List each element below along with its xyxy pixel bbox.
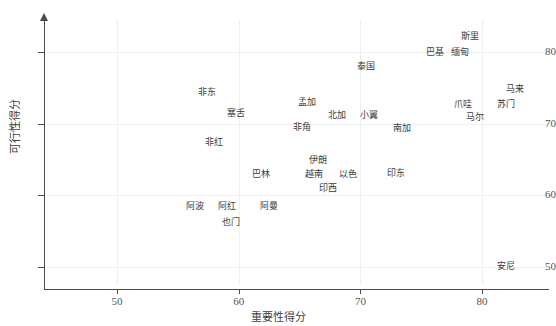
data-point-label: 南加 — [393, 124, 411, 133]
data-point-label: 爪哇 — [454, 99, 472, 108]
y-axis-tick-label: 70 — [520, 118, 556, 129]
y-axis-tick-label: 50 — [520, 261, 556, 272]
data-point-label: 非角 — [293, 123, 311, 132]
y-axis-title: 可行性得分 — [6, 66, 22, 186]
y-axis-tick — [38, 52, 44, 53]
scatter-chart: 斯里巴基缅甸泰国马来非东孟加爪哇苏门塞舌北加小翼马尔非角南加非红伊朗巴林越南以色… — [0, 0, 556, 326]
data-point-label: 阿曼 — [260, 202, 278, 211]
gridline-vertical — [239, 20, 240, 285]
data-point-label: 印西 — [319, 184, 337, 193]
data-point-label: 小翼 — [360, 111, 378, 120]
data-point-label: 巴林 — [252, 169, 270, 178]
x-axis-title: 重要性得分 — [0, 308, 556, 324]
data-point-label: 印东 — [387, 168, 405, 177]
data-point-label: 阿红 — [218, 202, 236, 211]
gridline-horizontal — [44, 195, 549, 196]
x-axis-tick-label: 80 — [462, 296, 502, 307]
data-point-label: 孟加 — [298, 98, 316, 107]
x-axis-tick — [117, 289, 118, 294]
gridline-vertical — [482, 20, 483, 285]
y-axis-tick-label: 60 — [520, 189, 556, 200]
x-axis-tick — [360, 289, 361, 294]
data-point-label: 缅甸 — [451, 48, 469, 57]
gridline-horizontal — [44, 52, 549, 53]
data-point-label: 巴基 — [426, 48, 444, 57]
data-point-label: 泰国 — [357, 61, 375, 70]
data-point-label: 斯里 — [461, 31, 479, 40]
y-axis-line — [44, 20, 45, 289]
x-axis-tick — [482, 289, 483, 294]
x-axis-tick — [239, 289, 240, 294]
y-axis-tick — [38, 267, 44, 268]
data-point-label: 阿波 — [186, 202, 204, 211]
y-axis-arrow-icon — [40, 13, 48, 21]
data-point-label: 非东 — [198, 87, 216, 96]
gridline-horizontal — [44, 267, 549, 268]
data-point-label: 安尼 — [497, 262, 515, 271]
data-point-label: 苏门 — [497, 99, 515, 108]
data-point-label: 塞舌 — [227, 109, 245, 118]
data-point-label: 也门 — [222, 217, 240, 226]
x-axis-tick-label: 70 — [340, 296, 380, 307]
x-axis-tick-label: 50 — [97, 296, 137, 307]
gridline-vertical — [117, 20, 118, 285]
data-point-label: 非红 — [205, 138, 223, 147]
y-axis-tick — [38, 124, 44, 125]
data-point-label: 北加 — [328, 111, 346, 120]
data-point-label: 以色 — [339, 169, 357, 178]
y-axis-tick-label: 80 — [520, 46, 556, 57]
x-axis-tick-label: 60 — [219, 296, 259, 307]
data-point-label: 伊朗 — [309, 156, 327, 165]
data-point-label: 越南 — [305, 169, 323, 178]
y-axis-tick — [38, 195, 44, 196]
x-axis-line — [44, 289, 549, 290]
data-point-label: 马尔 — [466, 112, 484, 121]
data-point-label: 马来 — [506, 85, 524, 94]
plot-area: 斯里巴基缅甸泰国马来非东孟加爪哇苏门塞舌北加小翼马尔非角南加非红伊朗巴林越南以色… — [44, 20, 549, 285]
